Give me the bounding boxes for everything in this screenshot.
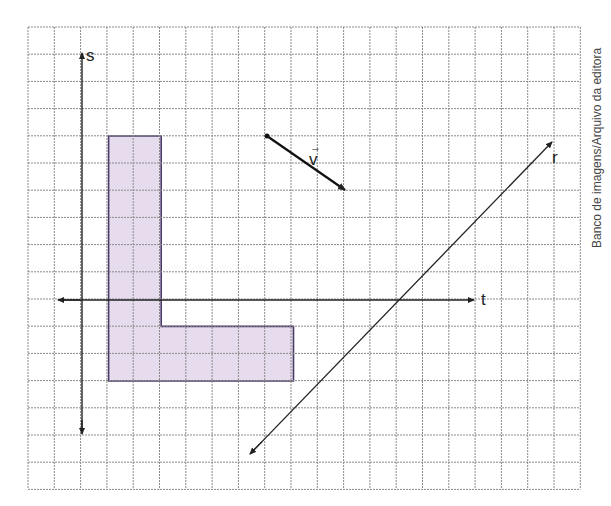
line-r <box>251 142 552 453</box>
t-axis-label: t <box>481 291 486 308</box>
l-shape <box>109 136 294 381</box>
vector-v-label: → v <box>309 151 318 168</box>
vector-arrow-accent: → <box>310 142 321 153</box>
image-credit: Banco de imagens/Arquivo da editora <box>590 48 604 248</box>
line-r-lower-arrow <box>250 442 262 454</box>
s-axis-label: s <box>86 47 95 64</box>
diagram-canvas <box>0 0 611 506</box>
line-r-label: r <box>552 149 558 166</box>
